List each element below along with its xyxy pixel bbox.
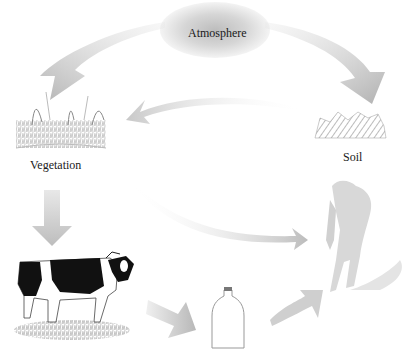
soil-label: Soil: [343, 150, 362, 165]
arrow-cow-to-milk: [146, 300, 196, 338]
cow-illustration: [14, 252, 134, 340]
arrow-soil-to-vegetation: [126, 98, 305, 124]
arrow-atmosphere-to-soil: [265, 22, 385, 104]
arrow-atmosphere-to-vegetation: [40, 22, 165, 100]
arrow-vegetation-to-cow: [32, 190, 72, 246]
vegetation-label: Vegetation: [30, 158, 81, 173]
soil-illustration: [315, 112, 386, 138]
milk-bottle-illustration: [212, 287, 244, 348]
arrow-vegetation-to-human: [130, 180, 308, 250]
arrow-milk-to-human: [270, 290, 323, 326]
vegetation-illustration: [16, 92, 106, 148]
cycle-diagram: Atmosphere: [0, 0, 417, 351]
human-illustration: [326, 181, 402, 292]
